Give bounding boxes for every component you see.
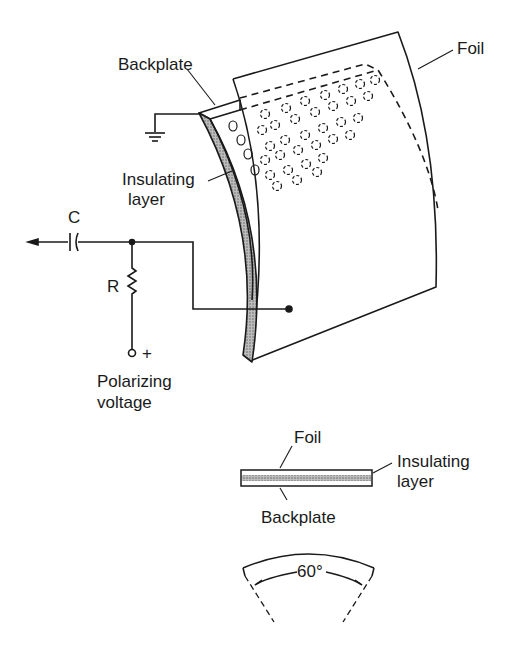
label-polarizing-line2: voltage bbox=[97, 393, 152, 412]
resistor-icon bbox=[128, 242, 136, 350]
perforation-holes bbox=[229, 76, 380, 191]
diagram-canvas: Backplate Foil Insulating layer C R + Po… bbox=[0, 0, 512, 653]
ground-connection bbox=[145, 114, 199, 141]
cs-label-insulating-line1: Insulating bbox=[397, 452, 470, 471]
backplate-strip bbox=[199, 100, 257, 362]
cross-section: Foil Insulating layer Backplate bbox=[241, 428, 470, 527]
label-plus: + bbox=[142, 344, 152, 363]
label-polarizing-line1: Polarizing bbox=[97, 372, 172, 391]
label-capacitor: C bbox=[68, 208, 80, 227]
label-insulating-line2: layer bbox=[128, 190, 165, 209]
cs-label-backplate: Backplate bbox=[261, 508, 336, 527]
microphone-diagram: Backplate Foil Insulating layer C R + Po… bbox=[0, 0, 512, 653]
foil-sheet bbox=[233, 32, 436, 361]
label-resistor: R bbox=[107, 277, 119, 296]
label-backplate: Backplate bbox=[118, 55, 193, 74]
cs-label-insulating-line2: layer bbox=[397, 472, 434, 491]
terminal-icon bbox=[129, 350, 136, 357]
angle-indicator: 60° bbox=[243, 554, 374, 622]
angle-label: 60° bbox=[297, 562, 323, 581]
input-arrow-icon bbox=[28, 239, 38, 245]
label-insulating-line1: Insulating bbox=[122, 170, 195, 189]
cs-label-foil: Foil bbox=[294, 428, 321, 447]
label-foil: Foil bbox=[457, 39, 484, 58]
